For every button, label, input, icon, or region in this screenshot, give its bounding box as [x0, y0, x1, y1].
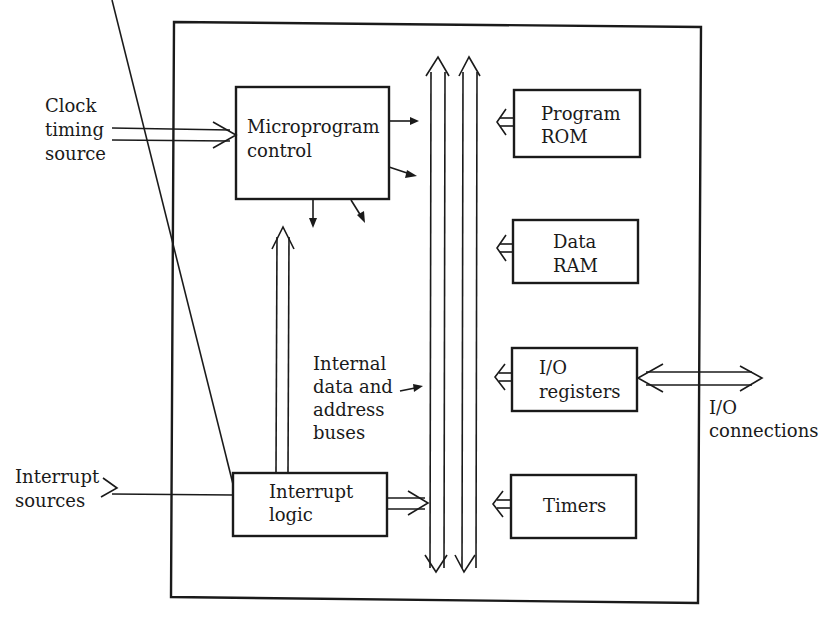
interrupt-to-microprogram-arrow — [272, 227, 294, 473]
interrupt-logic-label-line1: Interrupt — [269, 481, 354, 502]
microprogram-label-line2: control — [247, 140, 312, 161]
interrupt-to-bus-arrow — [387, 491, 428, 515]
svg-text:I/O: I/O — [539, 357, 567, 378]
svg-text:buses: buses — [313, 422, 365, 443]
interrupt-logic-label-line2: logic — [269, 504, 313, 525]
svg-text:Internal: Internal — [313, 353, 387, 374]
svg-text:Interrupt: Interrupt — [15, 466, 100, 487]
svg-text:Data: Data — [553, 231, 596, 252]
bus-label: Internal data and address buses — [313, 353, 423, 443]
io-connections-label: I/O connections — [709, 397, 819, 441]
program-rom-block: Program ROM — [497, 90, 640, 157]
svg-text:Clock: Clock — [45, 95, 97, 116]
svg-text:ROM: ROM — [541, 126, 588, 147]
data-ram-block: Data RAM — [497, 220, 638, 283]
svg-text:data and: data and — [313, 376, 393, 397]
internal-bus-1 — [425, 57, 449, 572]
svg-text:connections: connections — [709, 420, 819, 441]
svg-text:Timers: Timers — [543, 495, 606, 516]
svg-text:Program: Program — [541, 103, 620, 124]
internal-bus-2 — [455, 57, 480, 572]
clock-label: Clock timing source — [45, 95, 106, 164]
svg-text:I/O: I/O — [709, 397, 737, 418]
svg-text:address: address — [313, 399, 385, 420]
interrupt-logic-block: Interrupt logic — [233, 473, 387, 536]
microprogram-control-block: Microprogram control — [236, 87, 389, 199]
io-registers-block: I/O registers — [495, 348, 637, 411]
interrupt-sources-label: Interrupt sources — [15, 466, 100, 511]
svg-text:registers: registers — [539, 381, 621, 402]
interrupt-sources-input — [101, 0, 233, 497]
svg-text:sources: sources — [15, 490, 85, 511]
microcontroller-block-diagram: Microprogram control Clock timing source… — [0, 0, 830, 618]
timers-block: Timers — [493, 475, 636, 538]
microprogram-label-line1: Microprogram — [247, 116, 380, 137]
svg-text:source: source — [45, 143, 106, 164]
svg-text:timing: timing — [45, 119, 104, 140]
svg-text:RAM: RAM — [553, 255, 598, 276]
